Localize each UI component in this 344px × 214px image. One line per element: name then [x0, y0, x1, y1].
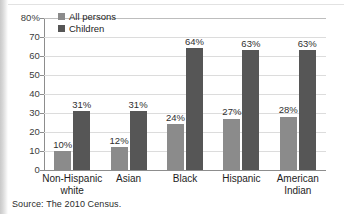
bar-value-label: 31%: [129, 100, 148, 110]
y-tick-mark-70: [40, 37, 44, 38]
bar-group: 12%31%: [100, 18, 156, 170]
bar-value-label: 63%: [298, 39, 317, 49]
bar-value-label: 10%: [53, 140, 72, 150]
y-tick-label-70: 70: [2, 32, 40, 42]
y-tick-mark-60: [40, 56, 44, 57]
bar-children: 31%: [130, 111, 147, 170]
plot-area: 10%31%12%31%24%64%27%63%28%63%: [44, 18, 326, 170]
legend-item-children: Children: [58, 23, 116, 34]
source-note: Source: The 2010 Census.: [12, 199, 121, 209]
bar-all-persons: 27%: [223, 119, 240, 170]
y-axis-tick-labels: 80%706050403020100: [0, 0, 40, 214]
x-label-line: Indian: [264, 185, 332, 197]
bar-group: 10%31%: [44, 18, 100, 170]
y-tick-mark-10: [40, 151, 44, 152]
bar-value-label: 27%: [222, 107, 241, 117]
legend-item-all-persons: All persons: [58, 11, 116, 22]
y-tick-mark-20: [40, 132, 44, 133]
legend-label-children: Children: [69, 23, 104, 34]
y-tick-label-80: 80%: [2, 13, 40, 23]
bar-value-label: 63%: [241, 39, 260, 49]
bar-all-persons: 24%: [167, 124, 184, 170]
y-tick-mark-80: [40, 18, 44, 19]
x-label-line: white: [38, 185, 106, 197]
bar-value-label: 64%: [185, 37, 204, 47]
bar-value-label: 31%: [72, 100, 91, 110]
y-tick-mark-50: [40, 75, 44, 76]
bar-children: 63%: [299, 50, 316, 170]
x-axis-label: AmericanIndian: [264, 173, 332, 197]
legend-swatch-icon-children: [58, 25, 65, 32]
bar-children: 31%: [73, 111, 90, 170]
y-tick-label-50: 50: [2, 70, 40, 80]
legend-swatch-icon-all-persons: [58, 13, 65, 20]
y-tick-label-0: 0: [2, 165, 40, 175]
bar-group: 27%63%: [213, 18, 269, 170]
y-tick-mark-0: [40, 170, 44, 171]
legend-label-all-persons: All persons: [69, 11, 116, 22]
bar-group: 24%64%: [157, 18, 213, 170]
x-label-line: American: [264, 173, 332, 185]
grouped-bar-chart: 80%706050403020100 10%31%12%31%24%64%27%…: [0, 0, 344, 214]
bar-value-label: 28%: [279, 105, 298, 115]
chart-legend: All persons Children: [58, 11, 116, 35]
bar-children: 64%: [186, 48, 203, 170]
y-tick-label-30: 30: [2, 108, 40, 118]
bar-value-label: 24%: [166, 113, 185, 123]
y-tick-mark-30: [40, 113, 44, 114]
y-tick-mark-40: [40, 94, 44, 95]
bar-all-persons: 12%: [111, 147, 128, 170]
bar-children: 63%: [242, 50, 259, 170]
y-tick-label-60: 60: [2, 51, 40, 61]
x-axis-line: [44, 170, 326, 171]
bar-value-label: 12%: [110, 136, 129, 146]
y-tick-label-10: 10: [2, 146, 40, 156]
bar-group: 28%63%: [270, 18, 326, 170]
bar-all-persons: 10%: [54, 151, 71, 170]
y-tick-label-20: 20: [2, 127, 40, 137]
y-tick-label-40: 40: [2, 89, 40, 99]
bar-all-persons: 28%: [280, 117, 297, 170]
